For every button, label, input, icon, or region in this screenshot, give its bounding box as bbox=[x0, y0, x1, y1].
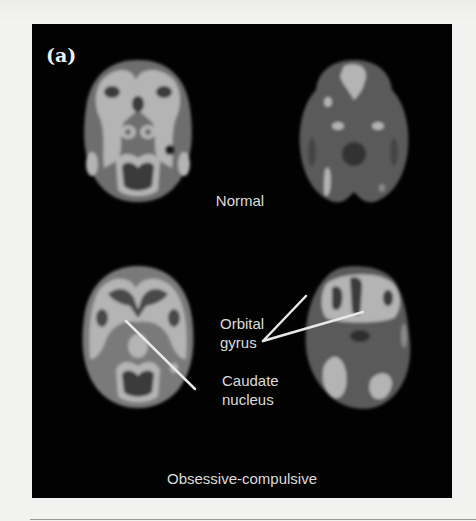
label-caudate-nucleus: Caudate nucleus bbox=[222, 371, 302, 409]
figure-panel: (a) bbox=[32, 24, 452, 498]
label-caudate-line1: Caudate bbox=[222, 371, 302, 390]
label-orbital-gyrus-line2: gyrus bbox=[220, 333, 280, 352]
label-caudate-line2: nucleus bbox=[222, 390, 302, 409]
page-margin-top bbox=[0, 0, 476, 24]
label-orbital-gyrus-line1: Orbital bbox=[220, 314, 280, 333]
label-orbital-gyrus: Orbital gyrus bbox=[220, 314, 280, 352]
caption-obsessive-compulsive: Obsessive-compulsive bbox=[132, 469, 352, 488]
pointer-lines bbox=[32, 24, 452, 498]
caudate-pointer-line bbox=[126, 321, 195, 389]
bottom-rule bbox=[30, 519, 476, 520]
